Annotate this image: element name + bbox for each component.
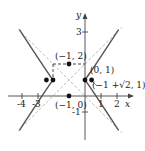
point-box-top (67, 62, 72, 67)
x-tick-neg3: -3 (32, 99, 41, 109)
x-axis-label: x (125, 99, 130, 109)
label-focus-right: (−1 +√2, 1) (92, 80, 145, 90)
y-axis-label: y (75, 10, 82, 20)
label-vertex-right: (0, 1) (90, 65, 114, 75)
asymptote-positive (18, 27, 122, 131)
point-vertex-left (51, 78, 56, 83)
fundamental-rectangle (53, 64, 85, 80)
y-axis-arrow-icon (83, 13, 88, 19)
x-axis-arrow-icon (128, 94, 134, 99)
x-tick-2: 2 (114, 99, 120, 109)
x-tick-neg4: -4 (17, 99, 26, 109)
point-box-bottom (67, 94, 72, 99)
y-tick-3: 3 (76, 27, 82, 37)
label-box-bottom: (−1, 0) (55, 100, 87, 110)
point-vertex-right (83, 78, 88, 83)
point-focus-left (44, 78, 49, 83)
label-box-top: (−1, 2) (55, 51, 87, 61)
hyperbola-diagram: -4 -3 1 2 3 -1 x y (−1, 2) (0, 1) (−1 +√… (0, 0, 145, 151)
x-tick-1: 1 (98, 99, 104, 109)
